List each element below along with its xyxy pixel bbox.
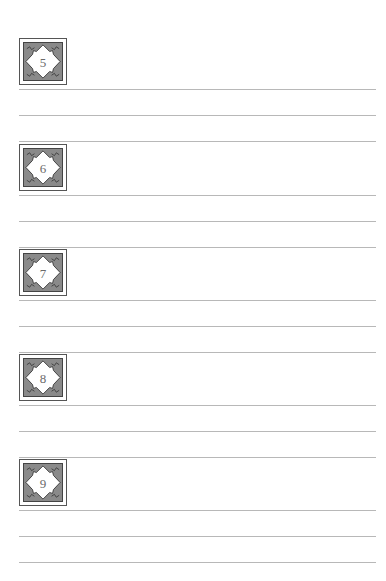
writing-line [19,536,376,537]
question-section-9: 9 [19,459,376,564]
question-section-5: 5 [19,38,376,143]
question-number: 5 [24,55,62,68]
question-section-6: 6 [19,144,376,249]
writing-line [19,431,376,432]
writing-line [19,89,376,90]
question-number: 8 [24,371,62,384]
writing-line [19,247,376,248]
ornate-diamond-badge-icon: 5 [23,42,63,81]
number-badge: 7 [19,249,67,296]
writing-line [19,405,376,406]
question-number: 9 [24,476,62,489]
question-section-7: 7 [19,249,376,354]
writing-line [19,195,376,196]
writing-line [19,141,376,142]
number-badge: 6 [19,144,67,191]
number-badge: 8 [19,354,67,401]
ornate-diamond-badge-icon: 9 [23,463,63,502]
number-badge: 5 [19,38,67,85]
writing-line [19,221,376,222]
writing-line [19,562,376,563]
number-badge: 9 [19,459,67,506]
writing-line [19,326,376,327]
writing-line [19,352,376,353]
writing-line [19,300,376,301]
ornate-diamond-badge-icon: 6 [23,148,63,187]
question-number: 6 [24,161,62,174]
ornate-diamond-badge-icon: 8 [23,358,63,397]
ornate-diamond-badge-icon: 7 [23,253,63,292]
question-section-8: 8 [19,354,376,459]
writing-line [19,115,376,116]
writing-line [19,457,376,458]
question-number: 7 [24,266,62,279]
writing-line [19,510,376,511]
